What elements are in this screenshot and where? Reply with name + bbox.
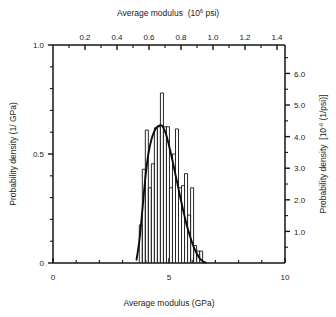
top-axis-title-unit-end: psi) <box>203 8 219 18</box>
figure-container: Average modulus (106 psi) 0.20.40.60.81.… <box>0 0 336 317</box>
top-axis-title: Average modulus (106 psi) <box>117 8 219 18</box>
left-tick-label: 0 <box>40 259 45 268</box>
top-tick-label: 1.2 <box>239 33 251 42</box>
probability-density-chart: Average modulus (106 psi) 0.20.40.60.81.… <box>0 0 336 317</box>
right-axis-title-main: Probability density <box>318 144 328 214</box>
top-axis-title-main: Average modulus <box>117 8 183 18</box>
right-tick-label: 4.0 <box>294 133 306 142</box>
top-tick-label: 0.6 <box>143 33 155 42</box>
right-tick-label: 1.0 <box>294 228 306 237</box>
left-tick-label: 0.5 <box>33 150 45 159</box>
top-tick-label: 0.8 <box>175 33 187 42</box>
right-axis-title-unit: [10 <box>318 128 328 140</box>
right-tick-label: 3.0 <box>294 164 306 173</box>
bottom-axis-title: Average modulus (GPa) <box>123 298 214 308</box>
bottom-tick-label: 0 <box>51 273 56 282</box>
right-tick-label: 6.0 <box>294 70 306 79</box>
bottom-tick-label: 5 <box>167 273 172 282</box>
right-tick-label: 2.0 <box>294 196 306 205</box>
bottom-tick-label: 10 <box>281 273 290 282</box>
right-tick-label: 5.0 <box>294 101 306 110</box>
right-axis-title-unit-end: (1/psi)] <box>318 95 328 123</box>
top-tick-label: 0.4 <box>111 33 123 42</box>
top-tick-label: 1.0 <box>207 33 219 42</box>
left-tick-label: 1.0 <box>33 41 45 50</box>
top-tick-label: 1.4 <box>271 33 283 42</box>
top-tick-label: 0.2 <box>79 33 91 42</box>
top-axis-title-unit: (10 <box>188 8 201 18</box>
left-axis-title: Probability density (1/ GPa) <box>8 102 18 206</box>
right-axis-title: Probability density [10-6 (1/psi)] <box>318 95 328 214</box>
